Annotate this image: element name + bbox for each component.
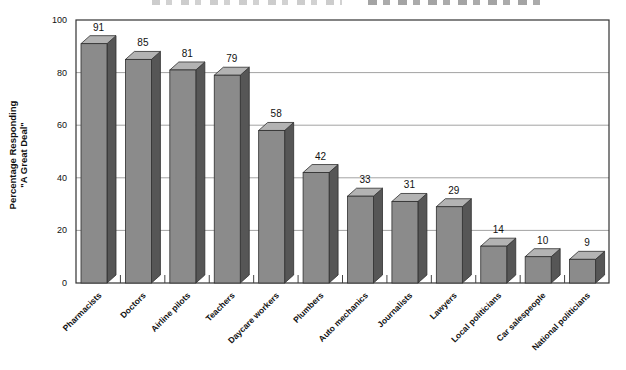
bar-side-face [285,122,294,283]
bar-value-label: 29 [448,185,460,196]
bar-value-label: 81 [182,48,194,59]
bar-value-label: 91 [93,22,105,33]
bar-value-label: 58 [271,108,283,119]
cropped-chart-title-fragment [368,0,540,5]
y-axis-title-line1: Percentage Responding [7,100,18,209]
y-axis-tick-label: 0 [62,278,67,288]
bar [170,70,196,283]
bar-side-face [329,165,338,283]
cropped-chart-title-fragment [152,0,342,5]
bar-chart: 02040608010091Pharmacists85Doctors81Airl… [0,0,626,370]
category-label: Teachers [204,290,237,323]
chart-figure: 02040608010091Pharmacists85Doctors81Airl… [0,0,626,370]
bar-side-face [151,51,160,283]
bar [392,201,418,283]
bar [81,44,107,283]
bar-side-face [107,36,116,283]
bar [436,207,462,283]
bar [125,59,151,283]
bar-value-label: 31 [404,179,416,190]
category-label: Doctors [118,290,148,320]
bar [214,75,240,283]
category-label: Plumbers [291,290,326,325]
y-axis-tick-label: 80 [57,68,67,78]
category-label: Journalists [375,290,414,329]
bar-value-label: 14 [493,224,505,235]
bar [570,259,596,283]
category-label: Airline pilots [149,290,193,334]
bar-side-face [240,67,249,283]
y-axis-tick-label: 100 [52,15,67,25]
y-axis-tick-label: 20 [57,225,67,235]
bar-side-face [462,199,471,283]
y-axis-tick-label: 40 [57,173,67,183]
bar-value-label: 79 [226,53,238,64]
bar-value-label: 9 [584,237,590,248]
y-axis-title-line2: "A Great Deal" [18,122,29,188]
bar-value-label: 33 [359,174,371,185]
bar-value-label: 85 [137,37,149,48]
category-label: Pharmacists [61,290,104,333]
bar [303,173,329,283]
bar-value-label: 10 [537,235,549,246]
bar-value-label: 42 [315,151,327,162]
category-label: Lawyers [428,290,459,321]
bar-side-face [196,62,205,283]
bar-side-face [374,188,383,283]
bar [525,257,551,283]
bar [481,246,507,283]
y-axis-tick-label: 60 [57,120,67,130]
bar-side-face [418,193,427,283]
bar [259,130,285,283]
bar [348,196,374,283]
